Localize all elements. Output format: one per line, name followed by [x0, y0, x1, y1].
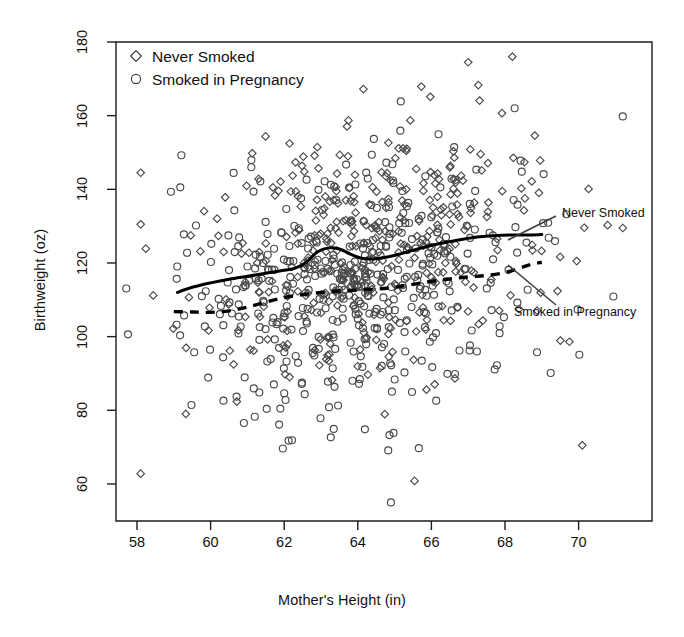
y-tick-label: 180: [62, 22, 102, 62]
x-axis-title: Mother's Height (in): [0, 592, 684, 608]
y-tick-label: 80: [62, 390, 102, 430]
scatter-plot-figure: Mother's Height (in) Birthweight (oz) 58…: [0, 0, 684, 637]
x-tick-label: 70: [559, 534, 599, 550]
y-tick-label: 160: [62, 96, 102, 136]
y-axis-title: Birthweight (oz): [32, 160, 48, 400]
annotation-never-smoked: Never Smoked: [562, 206, 645, 220]
y-tick-label: 120: [62, 243, 102, 283]
annotation-smoked-in-pregnancy: Smoked in Pregnancy: [514, 305, 636, 319]
x-tick-label: 68: [485, 534, 525, 550]
x-tick-label: 60: [191, 534, 231, 550]
x-tick-label: 64: [338, 534, 378, 550]
x-tick-label: 66: [411, 534, 451, 550]
legend-item-smoked-in-pregnancy: Smoked in Pregnancy: [152, 71, 304, 89]
y-tick-label: 100: [62, 317, 102, 357]
legend-item-never-smoked: Never Smoked: [152, 48, 255, 66]
y-tick-label: 60: [62, 464, 102, 504]
x-tick-label: 58: [117, 534, 157, 550]
y-tick-label: 140: [62, 169, 102, 209]
x-tick-label: 62: [264, 534, 304, 550]
